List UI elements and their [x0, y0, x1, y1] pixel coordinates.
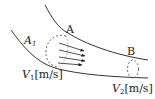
label-section-b: B — [127, 45, 135, 58]
label-velocity-1: V1[m/s] — [22, 68, 63, 82]
flow-arrows — [58, 43, 85, 65]
flow-arrow — [59, 43, 84, 51]
cross-section-b — [128, 60, 139, 78]
label-velocity-2: V2[m/s] — [112, 82, 153, 96]
label-section-a: A — [65, 23, 75, 36]
flow-arrow — [58, 63, 82, 65]
flow-arrow — [59, 57, 85, 61]
label-area-a1: A1 — [23, 34, 36, 48]
flow-arrow — [59, 50, 85, 56]
flow-diagram: A A1 B V1[m/s] V2[m/s] — [0, 0, 155, 99]
